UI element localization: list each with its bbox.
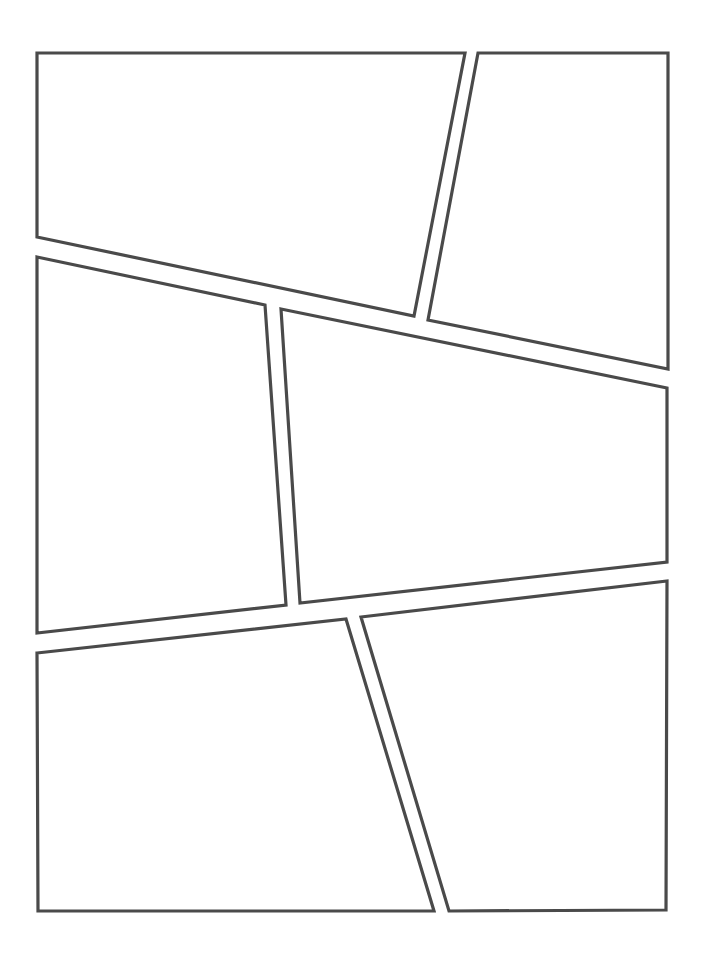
comic-panel-2: [428, 53, 668, 369]
panel-layout: [0, 0, 705, 954]
comic-panel-3: [37, 257, 286, 633]
comic-page-template: [0, 0, 705, 954]
